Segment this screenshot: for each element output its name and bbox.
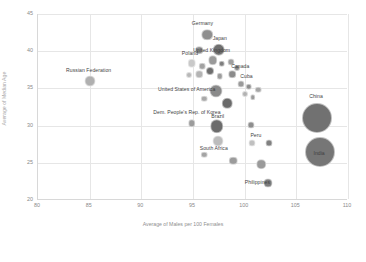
bubble-point[interactable]	[188, 59, 197, 68]
point-label: United Kingdom	[193, 49, 230, 54]
x-axis-tick-label: 100	[239, 203, 248, 208]
point-label: Russian Federation	[66, 68, 111, 73]
y-axis-tick-label: 30	[19, 123, 33, 128]
bubble-point[interactable]	[256, 160, 266, 170]
bubble-point[interactable]	[188, 120, 196, 128]
bubble-point[interactable]	[237, 80, 244, 87]
bubble-point[interactable]	[206, 67, 214, 75]
bubble-point[interactable]	[302, 103, 332, 133]
x-axis-title: Average of Males per 100 Females	[0, 222, 366, 227]
x-axis-tick-label: 85	[86, 203, 92, 208]
y-axis-tick-label: 45	[19, 11, 33, 16]
y-axis-tick-label: 25	[19, 160, 33, 165]
gridline-vertical	[90, 14, 91, 199]
y-axis-tick-label: 20	[19, 197, 33, 202]
plot-area	[37, 14, 347, 200]
gridline-horizontal	[38, 163, 347, 164]
bubble-point[interactable]	[242, 91, 248, 97]
y-axis-tick-label: 35	[19, 86, 33, 91]
bubble-point[interactable]	[208, 55, 218, 65]
bubble-point[interactable]	[210, 120, 224, 134]
bubble-point[interactable]	[222, 98, 233, 109]
point-label: India	[313, 152, 324, 157]
point-label: Peru	[250, 133, 261, 138]
point-label: South Africa	[200, 147, 228, 152]
bubble-point[interactable]	[201, 151, 208, 158]
gridline-vertical	[141, 14, 142, 199]
point-label: Germany	[192, 21, 213, 26]
y-axis-title: Average of Median Age	[2, 49, 7, 149]
bubble-point[interactable]	[195, 71, 203, 79]
bubble-point[interactable]	[255, 87, 262, 94]
point-label: Japan	[213, 36, 227, 41]
bubble-point[interactable]	[217, 73, 224, 80]
bubble-point[interactable]	[250, 95, 256, 101]
gridline-vertical	[296, 14, 297, 199]
bubble-point[interactable]	[266, 140, 273, 147]
point-label: Canada	[231, 65, 249, 70]
point-label: Poland	[182, 52, 198, 57]
point-label: China	[309, 95, 323, 100]
point-label: Brazil	[211, 115, 224, 120]
bubble-point[interactable]	[248, 139, 255, 146]
bubble-point[interactable]	[84, 75, 95, 86]
bubble-point[interactable]	[219, 61, 226, 68]
bubble-point[interactable]	[186, 72, 192, 78]
bubble-point[interactable]	[229, 156, 238, 165]
gridline-vertical	[193, 14, 194, 199]
x-axis-tick-label: 95	[189, 203, 195, 208]
bubble-point[interactable]	[246, 84, 253, 91]
x-axis-tick-label: 105	[291, 203, 300, 208]
bubble-chart: Average of Males per 100 Females Average…	[0, 0, 366, 262]
point-label: United States of America	[158, 88, 215, 93]
bubble-point[interactable]	[201, 96, 208, 103]
x-axis-tick-label: 80	[34, 203, 40, 208]
bubble-point[interactable]	[247, 121, 254, 128]
x-axis-tick-label: 110	[343, 203, 352, 208]
point-label: Cuba	[240, 74, 252, 79]
point-label: Philippines	[245, 180, 270, 185]
gridline-horizontal	[38, 14, 347, 15]
bubble-point[interactable]	[202, 29, 214, 41]
bubble-point[interactable]	[199, 63, 206, 70]
gridline-vertical	[245, 14, 246, 199]
x-axis-tick-label: 90	[137, 203, 143, 208]
bubble-point[interactable]	[229, 71, 237, 79]
gridline-vertical	[348, 14, 349, 199]
y-axis-tick-label: 40	[19, 48, 33, 53]
